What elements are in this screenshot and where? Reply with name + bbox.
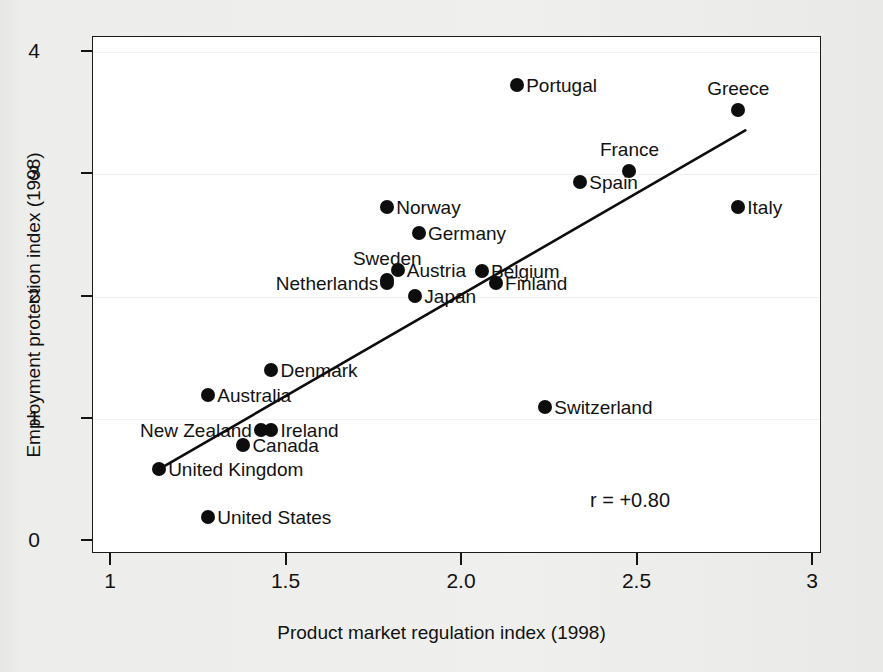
gridline — [93, 174, 820, 175]
correlation-annotation: r = +0.80 — [590, 489, 670, 512]
y-axis-tick — [81, 172, 92, 174]
data-point[interactable] — [412, 226, 426, 240]
data-point-label: Denmark — [280, 361, 357, 380]
y-axis-tick-label: 4 — [0, 40, 40, 61]
data-point-label: Switzerland — [554, 397, 652, 416]
y-axis-tick — [81, 295, 92, 297]
x-axis-tick-label: 3 — [782, 570, 842, 591]
x-axis-tick — [285, 553, 287, 565]
data-point[interactable] — [236, 438, 250, 452]
data-point-label: Germany — [428, 224, 506, 243]
data-point-label: United States — [217, 507, 331, 526]
data-point[interactable] — [408, 289, 422, 303]
x-axis-tick — [460, 553, 462, 565]
figure: Employment protection index (1998) Produ… — [0, 0, 883, 672]
data-point[interactable] — [731, 103, 745, 117]
data-point-label: Spain — [589, 172, 638, 191]
data-point[interactable] — [538, 400, 552, 414]
y-axis-tick-label: 1 — [0, 407, 40, 428]
data-point-label: New Zealand — [140, 420, 252, 439]
data-point-label: Portugal — [526, 76, 597, 95]
x-axis-tick-label: 1 — [80, 570, 140, 591]
data-point-label: Greece — [707, 79, 769, 98]
y-axis-tick-label: 0 — [0, 529, 40, 550]
y-axis-tick-label: 3 — [0, 162, 40, 183]
x-axis-title: Product market regulation index (1998) — [0, 622, 883, 644]
x-axis-tick-label: 2.5 — [607, 570, 667, 591]
x-axis-tick — [811, 553, 813, 565]
y-axis-tick-label: 2 — [0, 285, 40, 306]
data-point-label: Canada — [252, 435, 319, 454]
data-point-label: Japan — [424, 286, 476, 305]
data-point-label: Finland — [505, 274, 567, 293]
data-point[interactable] — [201, 388, 215, 402]
data-point-label: Netherlands — [276, 274, 378, 293]
data-point-label: Italy — [747, 198, 782, 217]
data-point-label: Australia — [217, 385, 291, 404]
x-axis-tick-label: 1.5 — [256, 570, 316, 591]
x-axis-tick — [636, 553, 638, 565]
data-point-label: Norway — [396, 198, 460, 217]
y-axis-tick — [81, 50, 92, 52]
data-point-label: Sweden — [353, 249, 422, 268]
x-axis-tick — [109, 553, 111, 565]
data-point-label: United Kingdom — [168, 460, 303, 479]
data-point[interactable] — [201, 510, 215, 524]
data-point-label: France — [600, 140, 659, 159]
y-axis-tick — [81, 539, 92, 541]
y-axis-tick — [81, 417, 92, 419]
x-axis-tick-label: 2.0 — [431, 570, 491, 591]
data-point[interactable] — [475, 264, 489, 278]
gridline — [93, 52, 820, 53]
